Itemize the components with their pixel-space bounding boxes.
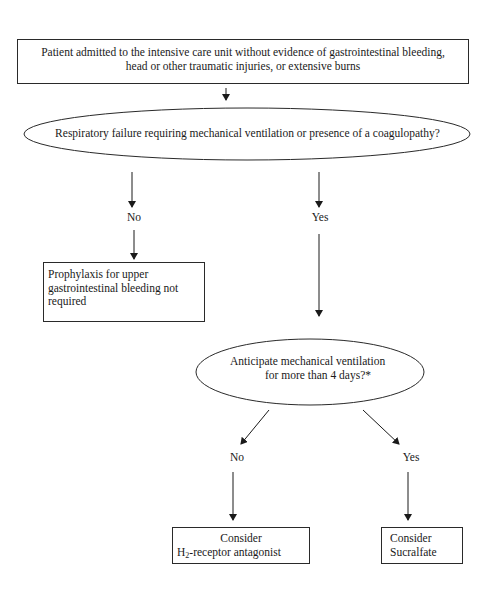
decision1-yes-label: Yes <box>312 211 329 224</box>
start-box-line1: Patient admitted to the intensive care u… <box>18 46 468 60</box>
sucralfate-box-line1: Consider <box>390 532 462 546</box>
decision1-text: Respiratory failure requiring mechanical… <box>40 127 455 141</box>
arrow-decision2-to-no <box>241 410 269 444</box>
decision1-question: Respiratory failure requiring mechanical… <box>55 127 440 139</box>
start-box: Patient admitted to the intensive care u… <box>17 39 469 84</box>
decision2-no-label: No <box>230 451 244 464</box>
sucralfate-box-line2: Sucralfate <box>390 546 462 560</box>
start-box-line2: head or other traumatic injuries, or ext… <box>18 60 468 74</box>
decision2-text: Anticipate mechanical ventilation for mo… <box>230 355 385 382</box>
arrow-decision2-to-yes <box>363 410 399 444</box>
no-prophylaxis-line3: required <box>48 295 204 309</box>
h2-box-line2: H2-receptor antagonist <box>177 546 309 560</box>
no-prophylaxis-line1: Prophylaxis for upper <box>48 268 204 282</box>
decision1-no-label: No <box>127 211 141 224</box>
decision2-yes-label: Yes <box>403 451 420 464</box>
no-prophylaxis-line2: gastrointestinal bleeding not <box>48 282 204 296</box>
decision2-line2: for more than 4 days?* <box>230 369 385 383</box>
flowchart: Patient admitted to the intensive care u… <box>0 0 495 589</box>
h2-antagonist-box: Consider H2-receptor antagonist <box>172 527 310 564</box>
sucralfate-box: Consider Sucralfate <box>381 527 463 564</box>
decision2-line1: Anticipate mechanical ventilation <box>230 355 385 369</box>
no-prophylaxis-box: Prophylaxis for upper gastrointestinal b… <box>43 262 205 322</box>
h2-box-line1: Consider <box>177 532 309 546</box>
h2-suffix: -receptor antagonist <box>189 546 281 558</box>
